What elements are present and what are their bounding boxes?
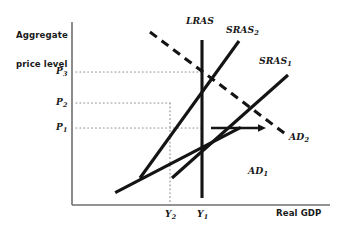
ad2-curve-label-text: AD — [289, 131, 304, 142]
price-tick-p1-letter: P — [56, 122, 63, 132]
price-tick-p2-letter: P — [56, 97, 63, 107]
output-tick-y2-sub: 2 — [172, 213, 176, 221]
output-tick-y1: Y1 — [197, 209, 208, 219]
price-tick-p2-sub: 2 — [63, 101, 67, 109]
sras2-curve-label-sub: 2 — [254, 29, 259, 37]
sras1-curve-label-sub: 1 — [287, 60, 292, 68]
guide-lines — [76, 72, 203, 205]
sras2-curve-label-text: SRAS — [226, 24, 254, 35]
output-tick-y1-letter: Y — [197, 209, 203, 219]
sras2-curve-label: SRAS2 — [226, 25, 259, 35]
sras1-curve — [172, 75, 288, 178]
price-tick-p3-letter: P — [56, 66, 63, 76]
aggregate-demand-supply-diagram: Aggregate price level Real GDP P3 P2 P1 … — [0, 0, 341, 227]
ad1-curve-label: AD1 — [248, 166, 268, 176]
price-tick-p3: P3 — [56, 66, 67, 76]
output-tick-y2-letter: Y — [165, 209, 171, 219]
ad1-curve-label-sub: 1 — [263, 170, 268, 178]
price-tick-p1-sub: 1 — [63, 126, 67, 134]
ad-shift-arrow — [211, 124, 266, 132]
sras1-curve-label-text: SRAS — [259, 55, 287, 66]
y-axis-title-line1: Aggregate — [16, 31, 68, 41]
sras1-curve-label: SRAS1 — [259, 56, 292, 66]
y-axis-title: Aggregate price level — [16, 12, 68, 89]
output-tick-y2: Y2 — [165, 209, 176, 219]
x-axis-title: Real GDP — [276, 209, 321, 219]
price-tick-p2: P2 — [56, 97, 67, 107]
ad1-curve-label-text: AD — [248, 165, 263, 176]
lras-curve-label-text: LRAS — [186, 15, 214, 26]
ad2-curve-label-sub: 2 — [304, 136, 309, 144]
ad2-curve-label: AD2 — [289, 132, 309, 142]
price-tick-p3-sub: 3 — [63, 70, 67, 78]
price-tick-p1: P1 — [56, 122, 67, 132]
ad2-curve — [150, 32, 288, 136]
output-tick-y1-sub: 1 — [204, 213, 208, 221]
ad-shift-arrow-head — [258, 124, 266, 132]
lras-curve-label: LRAS — [186, 16, 214, 26]
